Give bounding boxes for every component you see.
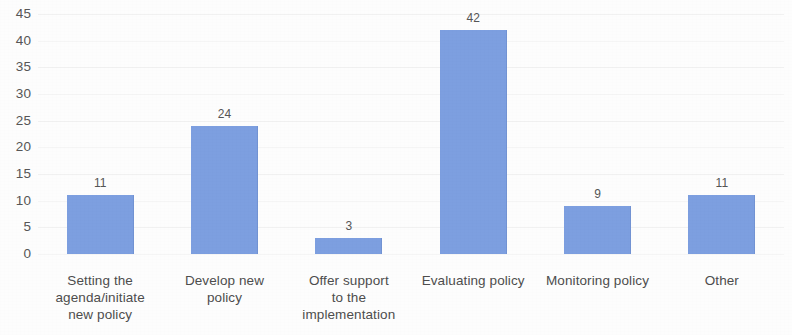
x-axis-category-label-line: policy — [162, 289, 286, 306]
gridline — [38, 227, 784, 228]
y-axis-tick-label: 15 — [1, 167, 31, 181]
bar[interactable] — [564, 206, 631, 254]
gridline — [38, 67, 784, 68]
x-axis-category-label: Monitoring policy — [535, 272, 659, 289]
bar[interactable] — [688, 195, 755, 254]
bar-group[interactable]: 11 — [688, 14, 755, 254]
x-axis-category-label-line: Evaluating policy — [411, 272, 535, 289]
bar-value-label: 3 — [315, 220, 382, 232]
x-axis-category-label-line: Develop new — [162, 272, 286, 289]
gridline — [38, 147, 784, 148]
x-axis-category-label: Setting theagenda/initiatenew policy — [38, 272, 162, 323]
bar[interactable] — [315, 238, 382, 254]
x-axis-category-label-line: Offer support — [287, 272, 411, 289]
gridline — [38, 121, 784, 122]
bar-value-label: 11 — [688, 177, 755, 189]
bar-group[interactable]: 9 — [564, 14, 631, 254]
x-axis-category-labels: Setting theagenda/initiatenew policyDeve… — [38, 272, 784, 334]
bar[interactable] — [191, 126, 258, 254]
bar-group[interactable]: 3 — [315, 14, 382, 254]
y-axis: 454035302520151050 — [0, 0, 38, 268]
bar[interactable] — [67, 195, 134, 254]
y-axis-tick-label: 40 — [1, 34, 31, 48]
x-axis-category-label-line: Other — [660, 272, 784, 289]
x-axis-category-label: Develop newpolicy — [162, 272, 286, 306]
x-axis-category-label-line: Setting the — [38, 272, 162, 289]
y-axis-tick-label: 30 — [1, 87, 31, 101]
gridline — [38, 254, 784, 255]
x-axis-category-label: Other — [660, 272, 784, 289]
gridline — [38, 94, 784, 95]
y-axis-tick-label: 35 — [1, 60, 31, 74]
y-axis-tick-label: 20 — [1, 140, 31, 154]
x-axis-category-label-line: new policy — [38, 306, 162, 323]
bar-value-label: 11 — [67, 177, 134, 189]
gridline — [38, 174, 784, 175]
x-axis-category-label-line: agenda/initiate — [38, 289, 162, 306]
bar[interactable] — [440, 30, 507, 254]
y-axis-tick-label: 25 — [1, 114, 31, 128]
bar-group[interactable]: 42 — [440, 14, 507, 254]
x-axis-category-label: Offer supportto theimplementation — [287, 272, 411, 323]
x-axis-category-label: Evaluating policy — [411, 272, 535, 289]
bar-chart: 454035302520151050 1124342911 Setting th… — [0, 0, 792, 335]
y-axis-tick-label: 45 — [1, 7, 31, 21]
bar-value-label: 42 — [440, 12, 507, 24]
y-axis-tick-label: 10 — [1, 194, 31, 208]
x-axis-category-label-line: implementation — [287, 306, 411, 323]
plot-area: 1124342911 — [38, 14, 784, 254]
bar-value-label: 9 — [564, 188, 631, 200]
x-axis-category-label-line: to the — [287, 289, 411, 306]
bar-group[interactable]: 24 — [191, 14, 258, 254]
gridline — [38, 14, 784, 15]
y-axis-tick-label: 5 — [1, 220, 31, 234]
gridline — [38, 41, 784, 42]
gridline — [38, 201, 784, 202]
x-axis-category-label-line: Monitoring policy — [535, 272, 659, 289]
y-axis-tick-label: 0 — [1, 247, 31, 261]
bar-group[interactable]: 11 — [67, 14, 134, 254]
bar-value-label: 24 — [191, 108, 258, 120]
